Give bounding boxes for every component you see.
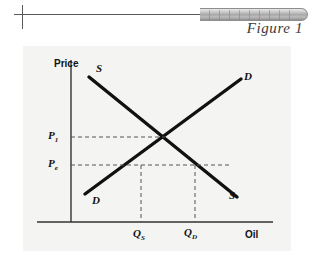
figure-header: Figure 1 — [0, 0, 314, 46]
price-label-p1-sub: 1 — [55, 136, 59, 144]
curve-label-d-bottom: D — [92, 194, 100, 206]
quantity-label-qs-text: Q — [133, 227, 141, 239]
quantity-label-qd: QD — [184, 226, 197, 241]
price-label-pe: Pe — [48, 157, 58, 172]
curve-label-s-bottom: S — [229, 189, 235, 201]
quantity-label-qs-sub: S — [141, 234, 145, 242]
price-label-pe-text: P — [48, 157, 55, 169]
supply-demand-chart: Price Oil S D D S P1 Pe QS QD — [23, 46, 291, 251]
price-label-pe-sub: e — [55, 164, 58, 172]
y-axis-title: Price — [54, 58, 78, 69]
figure-caption: Figure 1 — [0, 20, 303, 37]
curve-label-s-top: S — [96, 62, 102, 74]
price-label-p1: P1 — [48, 129, 58, 144]
price-label-p1-text: P — [48, 129, 55, 141]
tab-streaks-icon — [200, 10, 299, 20]
curve-label-d-top: D — [244, 70, 252, 82]
quantity-label-qd-sub: D — [192, 233, 197, 241]
horizontal-rule-icon — [14, 14, 204, 15]
quantity-label-qd-text: Q — [184, 226, 192, 238]
quantity-label-qs: QS — [133, 227, 145, 242]
x-axis-title: Oil — [245, 229, 258, 240]
